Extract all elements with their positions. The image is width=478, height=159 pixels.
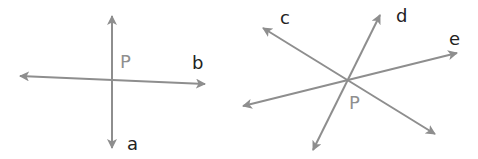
right-point-p-label: P <box>349 94 360 112</box>
line-a-label: a <box>127 135 138 153</box>
line-b-label: b <box>192 54 203 72</box>
line-e-label: e <box>449 30 460 48</box>
left-point-p-label: P <box>120 53 131 71</box>
line-d <box>313 15 380 150</box>
line-d-label: d <box>396 7 407 25</box>
right-figure <box>243 15 457 150</box>
line-c <box>263 28 435 134</box>
line-c-label: c <box>280 9 290 27</box>
left-figure <box>20 16 205 148</box>
